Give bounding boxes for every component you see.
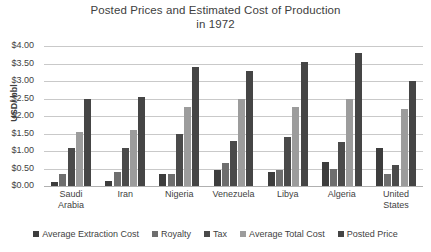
bar bbox=[159, 174, 166, 186]
legend-swatch-icon bbox=[33, 231, 39, 237]
gridline bbox=[44, 186, 423, 187]
bar bbox=[409, 81, 416, 186]
bar bbox=[76, 132, 83, 186]
x-axis-label-line-1: United bbox=[383, 189, 409, 199]
bar-groups bbox=[44, 46, 423, 186]
x-axis-label-line-2: Arabia bbox=[44, 200, 98, 211]
x-axis-tick-label: SaudiArabia bbox=[44, 189, 98, 211]
legend-item[interactable]: Average Total Cost bbox=[240, 229, 325, 239]
y-axis-tick-label: $0.50 bbox=[0, 163, 34, 173]
chart-container: Posted Prices and Estimated Cost of Prod… bbox=[0, 0, 431, 252]
chart-title-line-2: in 1972 bbox=[0, 17, 431, 31]
bar bbox=[168, 174, 175, 186]
bar bbox=[401, 109, 408, 186]
bar bbox=[392, 165, 399, 186]
x-axis-label-line-1: Venezuela bbox=[212, 189, 254, 199]
bar-group bbox=[44, 46, 98, 186]
bar bbox=[322, 162, 329, 187]
bar bbox=[105, 181, 112, 186]
x-axis-tick-label: UnitedStates bbox=[369, 189, 423, 211]
bar bbox=[230, 141, 237, 187]
plot-area: $4.00$3.50$3.00$2.50$2.00$1.50$1.00$0.50… bbox=[44, 46, 423, 186]
legend-swatch-icon bbox=[152, 231, 158, 237]
y-axis-tick-label: $1.50 bbox=[0, 128, 34, 138]
bar bbox=[68, 148, 75, 187]
x-axis-tick-label: Nigeria bbox=[152, 189, 206, 211]
bar bbox=[130, 130, 137, 186]
bar bbox=[276, 170, 283, 186]
bar-group bbox=[315, 46, 369, 186]
x-axis-label-line-1: Iran bbox=[117, 189, 133, 199]
legend-item[interactable]: Royalty bbox=[152, 229, 191, 239]
bar bbox=[138, 97, 145, 186]
bar bbox=[51, 182, 58, 186]
bar bbox=[301, 62, 308, 186]
bar bbox=[284, 137, 291, 186]
x-axis-label-line-1: Nigeria bbox=[165, 189, 194, 199]
bar bbox=[330, 169, 337, 187]
bar-group bbox=[369, 46, 423, 186]
legend-swatch-icon bbox=[240, 231, 246, 237]
bar-group bbox=[261, 46, 315, 186]
bar bbox=[346, 99, 353, 187]
bar bbox=[122, 148, 129, 187]
legend-item[interactable]: Average Extraction Cost bbox=[33, 229, 139, 239]
bar bbox=[238, 99, 245, 187]
x-axis-label-line-1: Libya bbox=[277, 189, 299, 199]
legend-item[interactable]: Posted Price bbox=[338, 229, 398, 239]
chart-title: Posted Prices and Estimated Cost of Prod… bbox=[0, 3, 431, 31]
bar bbox=[246, 71, 253, 187]
y-axis-tick-label: $0.00 bbox=[0, 180, 34, 190]
x-axis-tick-label: Venezuela bbox=[206, 189, 260, 211]
y-axis-tick-label: $2.50 bbox=[0, 93, 34, 103]
bar bbox=[222, 163, 229, 186]
bar-group bbox=[98, 46, 152, 186]
y-axis-tick-label: $2.00 bbox=[0, 110, 34, 120]
chart-title-line-1: Posted Prices and Estimated Cost of Prod… bbox=[90, 4, 340, 16]
bar-group bbox=[152, 46, 206, 186]
bar-group bbox=[206, 46, 260, 186]
y-axis-tick-label: $3.50 bbox=[0, 58, 34, 68]
x-axis-label-line-1: Saudi bbox=[60, 189, 83, 199]
legend-label: Average Extraction Cost bbox=[42, 229, 139, 239]
legend-label: Royalty bbox=[161, 229, 191, 239]
bar bbox=[376, 148, 383, 187]
bar bbox=[384, 174, 391, 186]
bar bbox=[292, 107, 299, 186]
x-axis-tick-label: Algeria bbox=[315, 189, 369, 211]
x-axis-label-line-1: Algeria bbox=[328, 189, 356, 199]
y-axis-tick-label: $4.00 bbox=[0, 40, 34, 50]
y-axis-tick-label: $1.00 bbox=[0, 145, 34, 155]
legend-label: Average Total Cost bbox=[249, 229, 325, 239]
legend-label: Tax bbox=[213, 229, 227, 239]
y-axis-tick-label: $3.00 bbox=[0, 75, 34, 85]
x-axis-labels: SaudiArabiaIranNigeriaVenezuelaLibyaAlge… bbox=[44, 189, 423, 211]
chart-legend: Average Extraction CostRoyaltyTaxAverage… bbox=[0, 229, 431, 239]
legend-label: Posted Price bbox=[347, 229, 398, 239]
bar bbox=[114, 172, 121, 186]
bar bbox=[338, 142, 345, 186]
bar bbox=[214, 170, 221, 186]
x-axis-tick-label: Iran bbox=[98, 189, 152, 211]
legend-swatch-icon bbox=[204, 231, 210, 237]
bar bbox=[84, 99, 91, 187]
bar bbox=[176, 134, 183, 187]
x-axis-label-line-2: States bbox=[369, 200, 423, 211]
legend-item[interactable]: Tax bbox=[204, 229, 227, 239]
bar bbox=[59, 174, 66, 186]
x-axis-tick-label: Libya bbox=[261, 189, 315, 211]
bar bbox=[184, 107, 191, 186]
legend-swatch-icon bbox=[338, 231, 344, 237]
bar bbox=[192, 67, 199, 186]
bar bbox=[268, 172, 275, 186]
bar bbox=[355, 53, 362, 186]
